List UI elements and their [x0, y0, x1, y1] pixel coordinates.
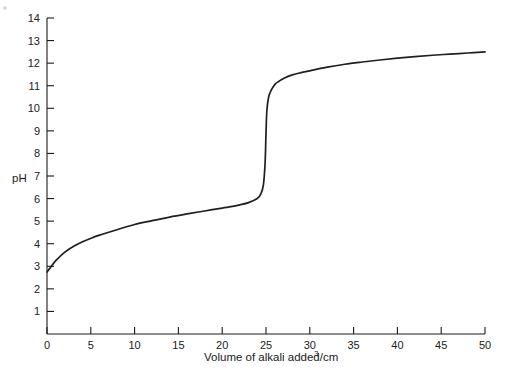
x-tick-label: 20: [216, 339, 228, 351]
y-tick-label: 9: [34, 125, 40, 137]
series-group: [47, 52, 485, 272]
y-tick-label: 10: [28, 102, 40, 114]
x-tick-label: 50: [479, 339, 491, 351]
x-tick-label: 25: [260, 339, 272, 351]
titration-curve: [47, 52, 485, 272]
x-axis-group: 05101520253035404550 Volume of alkali ad…: [44, 327, 491, 363]
y-tick-label: 6: [34, 193, 40, 205]
ph-titration-chart: 1234567891011121314 pH 05101520253035404…: [0, 0, 507, 373]
y-tick-label: 5: [34, 215, 40, 227]
y-tick-label: 13: [28, 35, 40, 47]
x-axis-title-superscript: 3: [314, 349, 319, 358]
y-axis-tick-labels: 1234567891011121314: [28, 12, 40, 317]
x-tick-label: 40: [391, 339, 403, 351]
y-tick-label: 4: [34, 238, 40, 250]
y-tick-label: 14: [28, 12, 40, 24]
x-axis-tick-labels: 05101520253035404550: [44, 339, 491, 351]
y-tick-label: 8: [34, 147, 40, 159]
y-tick-label: 11: [29, 80, 40, 92]
chart-canvas: 1234567891011121314 pH 05101520253035404…: [0, 0, 507, 373]
x-tick-label: 45: [435, 339, 447, 351]
x-axis-ticks: [47, 327, 485, 334]
x-tick-label: 0: [44, 339, 50, 351]
y-tick-label: 3: [34, 260, 40, 272]
x-tick-label: 5: [88, 339, 94, 351]
y-axis-group: 1234567891011121314 pH: [12, 12, 54, 334]
y-tick-label: 7: [34, 170, 40, 182]
y-tick-label: 2: [34, 283, 40, 295]
x-tick-label: 35: [347, 339, 359, 351]
y-tick-label: 1: [34, 305, 40, 317]
x-tick-label: 15: [172, 339, 184, 351]
x-tick-label: 10: [128, 339, 140, 351]
y-tick-label: 12: [28, 57, 40, 69]
y-axis-title: pH: [12, 172, 27, 184]
